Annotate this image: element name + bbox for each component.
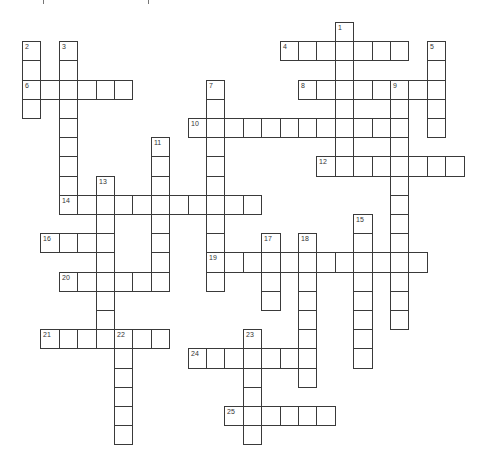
crossword-cell[interactable] xyxy=(114,80,133,100)
crossword-cell[interactable] xyxy=(169,195,189,215)
crossword-cell[interactable] xyxy=(390,118,409,138)
crossword-cell[interactable] xyxy=(40,80,60,100)
crossword-cell[interactable] xyxy=(427,156,446,177)
crossword-cell[interactable] xyxy=(298,406,317,426)
crossword-cell[interactable] xyxy=(335,60,354,81)
crossword-cell[interactable] xyxy=(390,252,409,273)
crossword-cell[interactable] xyxy=(335,252,354,273)
crossword-cell[interactable] xyxy=(59,80,78,100)
crossword-cell[interactable] xyxy=(353,310,373,330)
crossword-cell[interactable] xyxy=(96,272,115,292)
crossword-cell[interactable] xyxy=(372,118,391,138)
crossword-cell[interactable] xyxy=(206,233,225,253)
crossword-cell[interactable] xyxy=(280,252,299,273)
crossword-cell[interactable] xyxy=(77,329,97,349)
crossword-cell[interactable] xyxy=(335,137,354,157)
crossword-cell[interactable] xyxy=(132,195,152,215)
crossword-cell[interactable] xyxy=(243,406,262,426)
crossword-cell[interactable] xyxy=(22,99,41,119)
crossword-cell[interactable] xyxy=(316,118,336,138)
crossword-cell[interactable] xyxy=(372,252,391,273)
crossword-cell[interactable]: 20 xyxy=(59,272,78,292)
crossword-cell[interactable]: 2 xyxy=(22,41,41,61)
crossword-cell[interactable]: 4 xyxy=(280,41,299,61)
crossword-cell[interactable] xyxy=(59,60,78,81)
crossword-cell[interactable] xyxy=(316,406,336,426)
crossword-cell[interactable] xyxy=(151,195,170,215)
crossword-cell[interactable]: 3 xyxy=(59,41,78,61)
crossword-cell[interactable] xyxy=(353,329,373,349)
crossword-cell[interactable]: 9 xyxy=(390,80,409,100)
crossword-cell[interactable] xyxy=(206,99,225,119)
crossword-cell[interactable] xyxy=(298,348,317,369)
crossword-cell[interactable] xyxy=(59,99,78,119)
crossword-cell[interactable] xyxy=(224,348,244,369)
crossword-cell[interactable] xyxy=(151,252,170,273)
crossword-cell[interactable] xyxy=(261,118,281,138)
crossword-cell[interactable] xyxy=(298,118,317,138)
crossword-cell[interactable] xyxy=(335,41,354,61)
crossword-cell[interactable] xyxy=(206,176,225,196)
crossword-cell[interactable] xyxy=(132,329,152,349)
crossword-cell[interactable] xyxy=(114,368,133,388)
crossword-cell[interactable] xyxy=(243,425,262,445)
crossword-cell[interactable] xyxy=(298,252,317,273)
crossword-cell[interactable]: 12 xyxy=(316,156,336,177)
crossword-cell[interactable] xyxy=(206,195,225,215)
crossword-cell[interactable] xyxy=(372,80,391,100)
crossword-cell[interactable] xyxy=(59,329,78,349)
crossword-cell[interactable] xyxy=(298,329,317,349)
crossword-cell[interactable] xyxy=(335,118,354,138)
crossword-cell[interactable] xyxy=(408,80,428,100)
crossword-cell[interactable]: 22 xyxy=(114,329,133,349)
crossword-cell[interactable] xyxy=(353,291,373,311)
crossword-cell[interactable]: 24 xyxy=(188,348,207,369)
crossword-cell[interactable] xyxy=(408,252,428,273)
crossword-cell[interactable] xyxy=(427,80,446,100)
crossword-cell[interactable] xyxy=(151,329,170,349)
crossword-cell[interactable] xyxy=(96,214,115,234)
crossword-cell[interactable] xyxy=(206,348,225,369)
crossword-cell[interactable] xyxy=(298,310,317,330)
crossword-cell[interactable] xyxy=(59,233,78,253)
crossword-cell[interactable] xyxy=(390,272,409,292)
crossword-cell[interactable] xyxy=(390,195,409,215)
crossword-cell[interactable] xyxy=(59,118,78,138)
crossword-cell[interactable]: 1 xyxy=(335,22,354,42)
crossword-cell[interactable] xyxy=(96,252,115,273)
crossword-cell[interactable] xyxy=(224,195,244,215)
crossword-cell[interactable] xyxy=(261,348,281,369)
crossword-cell[interactable] xyxy=(353,233,373,253)
crossword-cell[interactable] xyxy=(96,195,115,215)
crossword-cell[interactable] xyxy=(151,272,170,292)
crossword-cell[interactable] xyxy=(390,176,409,196)
crossword-cell[interactable]: 16 xyxy=(40,233,60,253)
crossword-cell[interactable] xyxy=(316,252,336,273)
crossword-cell[interactable] xyxy=(114,387,133,407)
crossword-cell[interactable] xyxy=(77,80,97,100)
crossword-cell[interactable] xyxy=(96,233,115,253)
crossword-cell[interactable] xyxy=(353,41,373,61)
crossword-cell[interactable] xyxy=(114,195,133,215)
crossword-cell[interactable]: 21 xyxy=(40,329,60,349)
crossword-cell[interactable] xyxy=(316,80,336,100)
crossword-cell[interactable]: 8 xyxy=(298,80,317,100)
crossword-cell[interactable] xyxy=(96,329,115,349)
crossword-cell[interactable] xyxy=(353,272,373,292)
crossword-cell[interactable] xyxy=(151,176,170,196)
crossword-cell[interactable] xyxy=(390,233,409,253)
crossword-cell[interactable] xyxy=(77,195,97,215)
crossword-cell[interactable] xyxy=(335,80,354,100)
crossword-cell[interactable] xyxy=(96,310,115,330)
crossword-cell[interactable] xyxy=(132,272,152,292)
crossword-cell[interactable] xyxy=(59,137,78,157)
crossword-cell[interactable] xyxy=(261,272,281,292)
crossword-cell[interactable] xyxy=(151,214,170,234)
crossword-cell[interactable] xyxy=(335,156,354,177)
crossword-cell[interactable] xyxy=(243,195,262,215)
crossword-cell[interactable] xyxy=(261,252,281,273)
crossword-cell[interactable] xyxy=(151,156,170,177)
crossword-cell[interactable]: 5 xyxy=(427,41,446,61)
crossword-cell[interactable] xyxy=(243,348,262,369)
crossword-cell[interactable] xyxy=(390,291,409,311)
